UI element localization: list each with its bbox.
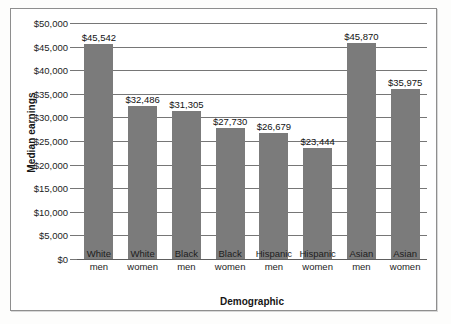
y-axis-tick	[70, 212, 77, 213]
bar-value-label: $31,305	[169, 99, 203, 110]
category-label-line1: Hispanic	[256, 248, 292, 259]
y-axis-tick	[70, 94, 77, 95]
bar-value-label: $23,444	[300, 136, 334, 147]
bar[interactable]: $26,679	[259, 133, 288, 259]
bar[interactable]: $31,305	[172, 111, 201, 259]
y-axis-tick-label: $20,000	[34, 159, 68, 170]
category-label-line1: White	[130, 248, 154, 259]
y-axis-tick-label: $10,000	[34, 206, 68, 217]
bar[interactable]: $45,870	[347, 43, 376, 260]
chart-frame: Median earnings $0$5,000$10,000$15,000$2…	[10, 8, 437, 311]
category-label-line1: Asian	[393, 248, 417, 259]
category-label-line2: men	[252, 261, 296, 274]
bar[interactable]: $23,444	[303, 148, 332, 259]
plot-area: $0$5,000$10,000$15,000$20,000$25,000$30,…	[77, 23, 427, 259]
category-label-line2: men	[340, 261, 384, 274]
y-axis-tick	[70, 70, 77, 71]
y-axis-tick	[70, 235, 77, 236]
y-axis-tick-label: $50,000	[34, 18, 68, 29]
bar[interactable]: $32,486	[128, 106, 157, 259]
category-label-line2: women	[208, 261, 252, 274]
category-label-line1: Black	[219, 248, 242, 259]
gridline	[77, 23, 427, 24]
y-axis-tick-label: $40,000	[34, 65, 68, 76]
y-axis-tick-label: $0	[57, 254, 68, 265]
category-label-line2: women	[121, 261, 165, 274]
y-axis-tick-label: $35,000	[34, 88, 68, 99]
x-axis-category-label: Hispanicmen	[252, 248, 296, 273]
y-axis-tick	[70, 141, 77, 142]
y-axis-tick	[70, 259, 77, 260]
y-axis-tick-label: $45,000	[34, 41, 68, 52]
y-axis-tick-label: $5,000	[39, 230, 68, 241]
x-axis-category-label: Blackwomen	[208, 248, 252, 273]
x-axis-category-label: Whitewomen	[121, 248, 165, 273]
y-axis-tick-label: $25,000	[34, 136, 68, 147]
bar-value-label: $45,542	[82, 32, 116, 43]
bar-value-label: $35,975	[388, 77, 422, 88]
bar-value-label: $45,870	[344, 31, 378, 42]
category-label-line2: men	[165, 261, 209, 274]
y-axis-tick	[70, 188, 77, 189]
x-axis-category-label: Blackmen	[165, 248, 209, 273]
x-axis-category-label: Hispanicwomen	[296, 248, 340, 273]
y-axis-tick-label: $30,000	[34, 112, 68, 123]
category-label-line2: men	[77, 261, 121, 274]
bar-value-label: $26,679	[257, 121, 291, 132]
bar-value-label: $32,486	[125, 94, 159, 105]
category-label-line1: Hispanic	[299, 248, 335, 259]
y-axis-tick	[70, 165, 77, 166]
y-axis-tick-label: $15,000	[34, 183, 68, 194]
figure-canvas: Median earnings $0$5,000$10,000$15,000$2…	[0, 0, 451, 324]
category-label-line1: Black	[175, 248, 198, 259]
x-axis-title: Demographic	[77, 296, 427, 307]
category-label-line2: women	[296, 261, 340, 274]
category-label-line1: White	[87, 248, 111, 259]
bar[interactable]: $45,542	[84, 44, 113, 259]
x-axis-category-label: Whitemen	[77, 248, 121, 273]
bar[interactable]: $27,730	[216, 128, 245, 259]
bar[interactable]: $35,975	[391, 89, 420, 259]
y-axis-tick	[70, 23, 77, 24]
x-axis-category-label: Asianmen	[340, 248, 384, 273]
bar-value-label: $27,730	[213, 116, 247, 127]
y-axis-tick	[70, 47, 77, 48]
x-axis-category-label: Asianwomen	[383, 248, 427, 273]
y-axis-tick	[70, 117, 77, 118]
category-label-line1: Asian	[349, 248, 373, 259]
category-label-line2: women	[383, 261, 427, 274]
